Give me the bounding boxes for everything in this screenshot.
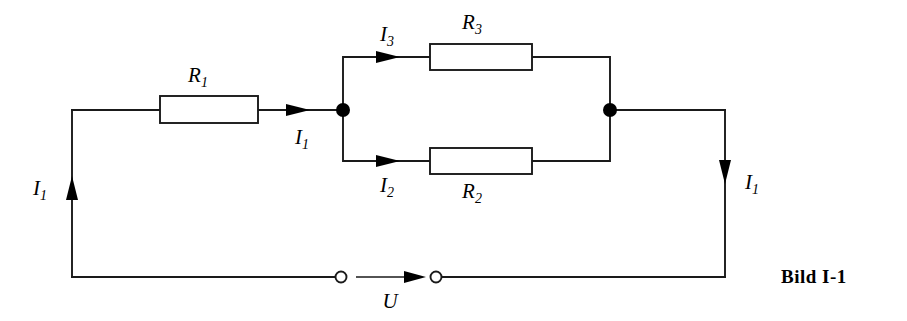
label-i3: I3	[379, 22, 394, 49]
label-i1-left: I1	[32, 176, 47, 203]
wire-branch-r2-left	[343, 110, 430, 161]
label-r2-subscript: 2	[475, 191, 482, 206]
terminal-right	[431, 272, 442, 283]
node-right	[603, 103, 617, 117]
arrow-i3	[376, 51, 400, 63]
label-i1-right: I1	[744, 170, 759, 197]
label-i1-series-subscript: 1	[302, 137, 309, 152]
arrow-i1-left	[66, 176, 78, 200]
arrow-i2	[376, 155, 400, 167]
resistor-r3	[430, 44, 532, 70]
terminal-left	[336, 272, 347, 283]
wire-branch-r3-right	[532, 57, 610, 110]
arrow-i1-series	[286, 104, 310, 116]
label-i1-series: I1	[294, 125, 309, 152]
node-left	[336, 103, 350, 117]
wire-branch-r2-right	[532, 110, 610, 161]
label-r1-subscript: 1	[201, 75, 208, 90]
label-u: U	[382, 289, 399, 313]
label-i1-left-subscript: 1	[40, 188, 47, 203]
resistor-r1	[160, 96, 258, 123]
label-r2: R2	[461, 179, 482, 206]
label-r1: R1	[187, 63, 208, 90]
label-r3-letter: R	[461, 10, 475, 34]
resistor-r2	[430, 148, 532, 174]
label-i1-right-subscript: 1	[752, 182, 759, 197]
figure-caption: Bild I-1	[781, 266, 847, 287]
arrow-i1-right	[719, 160, 731, 184]
label-i2-subscript: 2	[387, 185, 394, 200]
label-i3-subscript: 3	[386, 34, 394, 49]
arrow-u-head	[404, 271, 426, 283]
label-r3: R3	[461, 10, 482, 37]
label-r2-letter: R	[461, 179, 475, 203]
circuit-diagram: R1 R3 R2 I1 I1 I1 I3 I2 U Bild I-1	[0, 0, 907, 321]
label-i2: I2	[379, 173, 394, 200]
label-r1-letter: R	[187, 63, 201, 87]
wire-branch-r3-left	[343, 57, 430, 110]
label-r3-subscript: 3	[474, 22, 482, 37]
